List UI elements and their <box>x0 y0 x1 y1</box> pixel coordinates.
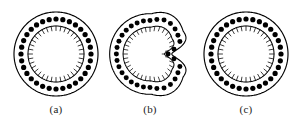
cell-dot <box>208 51 213 56</box>
cell-dot <box>129 24 134 29</box>
cell-dot <box>88 58 93 63</box>
cell-dot <box>83 32 88 37</box>
panel-c: (c) <box>196 0 296 131</box>
tick-mark <box>165 51 168 52</box>
cell-dot <box>29 76 34 81</box>
cell-dot <box>124 28 129 33</box>
cell-dot <box>172 56 177 61</box>
cell-dot <box>120 70 125 75</box>
cell-dot <box>141 84 146 89</box>
cell-dot <box>168 82 173 87</box>
cell-dot <box>86 38 91 43</box>
cell-dot <box>172 47 177 52</box>
caption-a: (a) <box>6 104 106 115</box>
cell-dot <box>129 79 134 84</box>
diagram-a <box>6 6 106 102</box>
cell-dot <box>177 39 182 44</box>
cell-dot <box>278 58 283 63</box>
cell-dot <box>237 17 242 22</box>
cell-dot <box>88 51 93 56</box>
cell-dot <box>177 64 182 69</box>
cell-dot <box>88 45 93 50</box>
cell-dot <box>214 32 219 37</box>
cell-dot <box>154 86 159 91</box>
cell-dot <box>173 26 178 31</box>
cell-dot <box>115 58 120 63</box>
cell-dot <box>24 32 29 37</box>
cell-dot <box>73 81 78 86</box>
cell-dot <box>154 17 159 22</box>
cell-dot <box>148 18 153 23</box>
cell-dot <box>78 76 83 81</box>
cell-dot <box>162 18 167 23</box>
cell-dot <box>60 17 65 22</box>
cell-dot <box>29 27 34 32</box>
inner-contour <box>28 26 84 82</box>
cell-dot <box>214 71 219 76</box>
cell-dot <box>40 84 45 89</box>
cell-dot <box>135 83 140 88</box>
cell-dot <box>141 19 146 24</box>
cell-dot <box>263 22 268 27</box>
cell-dot <box>209 58 214 63</box>
cell-dot <box>21 65 26 70</box>
cell-dot <box>173 77 178 82</box>
cell-dot <box>34 81 39 86</box>
cell-dot <box>18 51 23 56</box>
cell-dot <box>243 86 248 91</box>
cell-dot <box>135 20 140 25</box>
cell-dot <box>224 81 229 86</box>
cell-dot <box>162 85 167 90</box>
cell-dot <box>224 22 229 27</box>
cell-dot <box>243 16 248 21</box>
cell-dot <box>73 22 78 27</box>
cell-dot <box>47 86 52 91</box>
cell-dot <box>21 38 26 43</box>
cell-dot <box>276 38 281 43</box>
cell-dot <box>53 86 58 91</box>
cell-dot <box>273 32 278 37</box>
cell-dot <box>124 75 129 80</box>
cell-dot <box>53 16 58 21</box>
cell-dot <box>257 84 262 89</box>
cell-dot <box>278 45 283 50</box>
cell-dot <box>24 71 29 76</box>
cell-dot <box>273 71 278 76</box>
cell-dot <box>116 64 121 69</box>
cell-dot <box>86 65 91 70</box>
cell-dot <box>166 52 171 57</box>
cell-dot <box>211 38 216 43</box>
caption-b: (b) <box>102 104 198 115</box>
cell-dot <box>78 27 83 32</box>
cell-dot <box>250 86 255 91</box>
cell-dot <box>263 81 268 86</box>
caption-c: (c) <box>196 104 296 115</box>
inner-contour <box>218 26 274 82</box>
cell-dot <box>116 39 121 44</box>
cell-dot <box>83 71 88 76</box>
cell-dot <box>211 65 216 70</box>
panel-b: (b) <box>102 0 198 131</box>
diagram-c <box>196 6 296 102</box>
cell-dot <box>60 86 65 91</box>
cell-dot <box>47 17 52 22</box>
cell-dot <box>40 19 45 24</box>
cell-dot <box>115 45 120 50</box>
figure-container: (a) (b) (c) <box>0 0 298 131</box>
tick-mark <box>165 57 168 58</box>
cell-dot <box>230 84 235 89</box>
cell-dot <box>120 33 125 38</box>
cell-dot <box>168 21 173 26</box>
cell-dot <box>34 22 39 27</box>
cell-dot <box>219 76 224 81</box>
cell-dot <box>230 19 235 24</box>
cell-dot <box>114 52 119 57</box>
cell-dot <box>209 45 214 50</box>
cell-dot <box>175 70 180 75</box>
panel-a: (a) <box>6 0 106 131</box>
cell-dot <box>257 19 262 24</box>
cell-dot <box>268 27 273 32</box>
diagram-b <box>102 6 198 102</box>
cell-dot <box>67 19 72 24</box>
cell-dot <box>219 27 224 32</box>
